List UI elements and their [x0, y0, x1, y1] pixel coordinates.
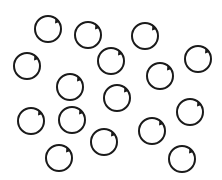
circular-arrow-icon [184, 45, 212, 73]
circular-arrow-icon [17, 107, 45, 135]
circular-arrow-icon [138, 117, 166, 145]
circular-arrow-icon [13, 52, 41, 80]
circular-arrow-icon [131, 22, 159, 50]
circular-arrow-icon [45, 144, 73, 172]
circular-arrow-icon [168, 145, 196, 173]
circular-arrow-icon [97, 47, 125, 75]
circular-arrow-icon [146, 62, 174, 90]
circular-arrow-icon [103, 84, 131, 112]
circular-arrow-icon [74, 21, 102, 49]
circular-arrow-icon [90, 128, 118, 156]
circular-arrow-icon [58, 106, 86, 134]
circular-arrow-icon [34, 15, 62, 43]
circular-arrow-icon [176, 98, 204, 126]
circular-arrow-icon [56, 73, 84, 101]
ring-canvas [0, 0, 222, 180]
